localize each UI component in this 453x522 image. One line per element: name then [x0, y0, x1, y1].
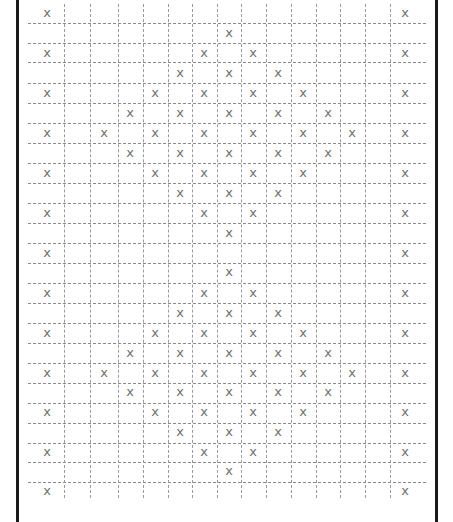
cross-mark: x — [245, 45, 261, 61]
cross-mark: x — [39, 125, 55, 141]
cross-mark: x — [147, 165, 163, 181]
cross-mark: x — [221, 345, 237, 361]
cross-mark: x — [221, 305, 237, 321]
cross-mark: x — [172, 424, 188, 440]
cross-mark: x — [295, 125, 311, 141]
cross-mark: x — [270, 305, 286, 321]
cross-mark: x — [295, 165, 311, 181]
cross-mark: x — [397, 245, 413, 261]
cross-mark: x — [245, 85, 261, 101]
cross-mark: x — [39, 165, 55, 181]
cross-mark: x — [122, 345, 138, 361]
grid-row-line — [28, 243, 426, 244]
grid-row-line — [28, 103, 426, 104]
cross-mark: x — [397, 45, 413, 61]
cross-mark: x — [196, 285, 212, 301]
grid-row-line — [28, 283, 426, 284]
cross-mark: x — [39, 5, 55, 21]
grid-row-line — [28, 123, 426, 124]
cross-mark: x — [39, 404, 55, 420]
cross-mark: x — [39, 483, 55, 499]
cross-mark: x — [172, 384, 188, 400]
cross-mark: x — [196, 404, 212, 420]
cross-mark: x — [196, 165, 212, 181]
cross-mark: x — [39, 245, 55, 261]
cross-mark: x — [270, 424, 286, 440]
grid-column-line — [90, 4, 91, 498]
grid-row-line — [28, 403, 426, 404]
cross-mark: x — [320, 384, 336, 400]
cross-mark: x — [245, 165, 261, 181]
cross-mark: x — [270, 65, 286, 81]
cross-mark: x — [122, 105, 138, 121]
cross-mark: x — [397, 5, 413, 21]
cross-mark: x — [122, 384, 138, 400]
cross-mark: x — [270, 384, 286, 400]
cross-mark: x — [397, 165, 413, 181]
cross-mark: x — [221, 225, 237, 241]
cross-mark: x — [221, 384, 237, 400]
grid-column-line — [266, 4, 267, 498]
cross-mark: x — [270, 345, 286, 361]
grid-row-line — [28, 143, 426, 144]
cross-mark: x — [39, 85, 55, 101]
grid-column-line — [291, 4, 292, 498]
cross-mark: x — [245, 285, 261, 301]
cross-mark: x — [147, 404, 163, 420]
cross-mark: x — [122, 145, 138, 161]
cross-mark: x — [344, 365, 360, 381]
grid-column-line — [365, 4, 366, 498]
cross-mark: x — [397, 404, 413, 420]
cross-mark: x — [196, 365, 212, 381]
grid-column-line — [316, 4, 317, 498]
cross-mark: x — [270, 105, 286, 121]
cross-mark: x — [295, 325, 311, 341]
cross-mark: x — [270, 185, 286, 201]
grid-column-line — [217, 4, 218, 498]
cross-mark: x — [245, 404, 261, 420]
cross-mark: x — [172, 145, 188, 161]
cross-mark: x — [172, 345, 188, 361]
cross-mark: x — [221, 424, 237, 440]
cross-mark: x — [39, 365, 55, 381]
grid-row-line — [28, 363, 426, 364]
cross-mark: x — [147, 325, 163, 341]
cross-mark: x — [172, 65, 188, 81]
cross-mark: x — [295, 404, 311, 420]
cross-mark: x — [96, 125, 112, 141]
cross-mark: x — [245, 325, 261, 341]
cross-mark: x — [147, 365, 163, 381]
cross-mark: x — [245, 365, 261, 381]
cross-mark: x — [245, 444, 261, 460]
cross-mark: x — [320, 345, 336, 361]
cross-mark: x — [221, 463, 237, 479]
grid-row-line — [28, 83, 426, 84]
grid-row-line — [28, 443, 426, 444]
cross-mark: x — [196, 45, 212, 61]
cross-mark: x — [397, 125, 413, 141]
cross-mark: x — [196, 125, 212, 141]
cross-mark: x — [295, 85, 311, 101]
cross-mark: x — [221, 264, 237, 280]
left-border — [16, 0, 19, 522]
cross-mark: x — [96, 365, 112, 381]
grid-row-line — [28, 223, 426, 224]
grid-column-line — [340, 4, 341, 498]
cross-mark: x — [320, 145, 336, 161]
grid-row-line — [28, 323, 426, 324]
grid-column-line — [241, 4, 242, 498]
cross-mark: x — [39, 285, 55, 301]
cross-mark: x — [344, 125, 360, 141]
grid-row-line — [28, 183, 426, 184]
cross-mark: x — [245, 205, 261, 221]
cross-mark: x — [196, 205, 212, 221]
cross-mark: x — [397, 285, 413, 301]
grid-row-line — [28, 163, 426, 164]
cross-mark: x — [221, 145, 237, 161]
cross-mark: x — [39, 444, 55, 460]
grid-column-line — [390, 4, 391, 498]
cross-mark: x — [147, 125, 163, 141]
cross-mark: x — [270, 145, 286, 161]
cross-mark: x — [397, 365, 413, 381]
grid-column-line — [192, 4, 193, 498]
